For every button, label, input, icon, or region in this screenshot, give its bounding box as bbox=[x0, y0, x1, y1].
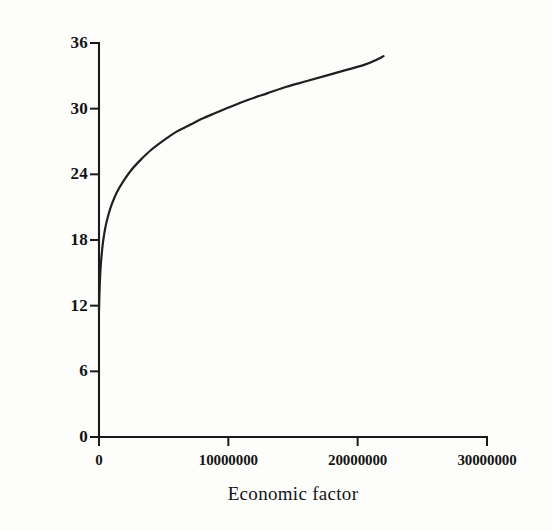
y-tick-label: 24 bbox=[71, 164, 88, 184]
x-axis-tick-labels: 0100000002000000030000000 bbox=[0, 452, 552, 478]
y-tick-label: 30 bbox=[71, 99, 88, 119]
tick-marks bbox=[90, 43, 487, 446]
chart-figure: 061218243036 0100000002000000030000000 D… bbox=[0, 0, 552, 531]
x-tick-label: 10000000 bbox=[199, 452, 258, 469]
y-tick-label: 0 bbox=[79, 427, 88, 447]
y-tick-label: 6 bbox=[79, 361, 88, 381]
x-axis-title: Economic factor bbox=[99, 483, 487, 505]
y-tick-label: 12 bbox=[71, 296, 88, 316]
data-series-line bbox=[99, 56, 384, 311]
x-tick-label: 20000000 bbox=[328, 452, 387, 469]
x-tick-label: 30000000 bbox=[457, 452, 516, 469]
y-tick-label: 36 bbox=[71, 33, 88, 53]
y-tick-label: 18 bbox=[71, 230, 88, 250]
x-tick-label: 0 bbox=[95, 452, 102, 469]
